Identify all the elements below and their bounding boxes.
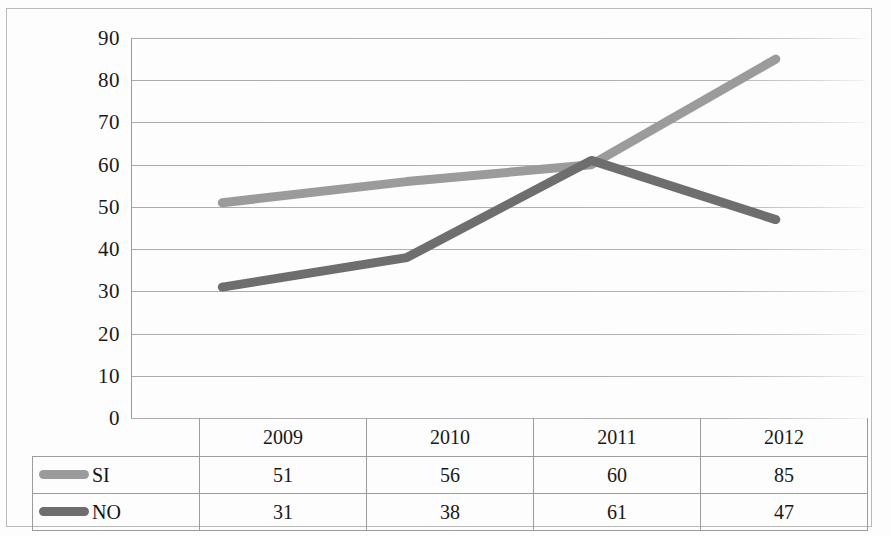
legend-cell-si: SI	[33, 457, 200, 494]
y-tick-90: 90	[74, 28, 120, 49]
table-header-2012: 2012	[701, 418, 868, 457]
cell-si-2012: 85	[701, 457, 868, 494]
cell-si-2011: 60	[534, 457, 701, 494]
legend-label-no: NO	[92, 501, 121, 524]
cell-no-2011: 61	[534, 494, 701, 531]
y-tick-60: 60	[74, 155, 120, 176]
table-header-2011: 2011	[534, 418, 701, 457]
legend-swatch-no-icon	[39, 507, 89, 516]
y-tick-10: 10	[74, 366, 120, 387]
series-line-si	[222, 59, 776, 203]
chart-screenshot: 90 80 70 60 50 40 30 20 10 0 2009 2010 2…	[0, 0, 891, 536]
y-tick-70: 70	[74, 112, 120, 133]
legend-swatch-si-icon	[39, 470, 89, 479]
table-row: SI 51 56 60 85	[33, 457, 868, 494]
y-tick-20: 20	[74, 324, 120, 345]
table-row: NO 31 38 61 47	[33, 494, 868, 531]
table-header-2010: 2010	[367, 418, 534, 457]
y-axis-tick-labels: 90 80 70 60 50 40 30 20 10 0	[68, 0, 120, 440]
series-line-no	[222, 160, 776, 287]
y-tick-40: 40	[74, 239, 120, 260]
table-header-row: 2009 2010 2011 2012	[33, 418, 868, 457]
cell-no-2010: 38	[367, 494, 534, 531]
cell-si-2010: 56	[367, 457, 534, 494]
y-tick-50: 50	[74, 197, 120, 218]
cell-no-2012: 47	[701, 494, 868, 531]
series-layer	[131, 38, 868, 418]
cell-si-2009: 51	[200, 457, 367, 494]
data-table: 2009 2010 2011 2012 SI 51 56 60 85 NO 31…	[32, 418, 868, 531]
table-corner-cell	[33, 418, 200, 457]
legend-label-si: SI	[92, 464, 110, 487]
cell-no-2009: 31	[200, 494, 367, 531]
y-tick-30: 30	[74, 281, 120, 302]
y-tick-80: 80	[74, 70, 120, 91]
legend-cell-no: NO	[33, 494, 200, 531]
table-header-2009: 2009	[200, 418, 367, 457]
